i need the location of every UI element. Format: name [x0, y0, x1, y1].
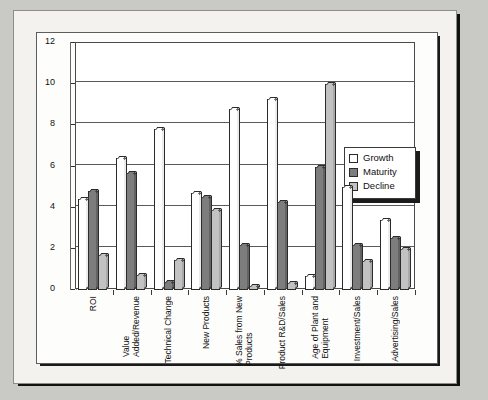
- category-label: ROI: [88, 296, 98, 311]
- bar-side-face: [237, 108, 240, 289]
- bar-growth-8: [380, 220, 389, 290]
- category-tick: [339, 290, 340, 295]
- bar-side-face: [370, 260, 373, 289]
- category-tick: [113, 290, 114, 295]
- bar-side-face: [275, 97, 278, 289]
- bar-maturity-4: [239, 245, 248, 290]
- bar-growth-3: [191, 193, 200, 290]
- category-tick: [188, 290, 189, 295]
- legend-swatch-maturity: [349, 168, 358, 177]
- bar-decline-0: [98, 255, 107, 290]
- bar-side-face: [96, 190, 99, 289]
- bar-side-face: [408, 247, 411, 289]
- legend-label-maturity: Maturity: [363, 167, 397, 177]
- bar-growth-7: [342, 187, 351, 290]
- category-label: Technical Change: [163, 296, 173, 364]
- legend-swatch-growth: [349, 154, 358, 163]
- bar-side-face: [144, 273, 147, 289]
- bar-maturity-0: [88, 191, 97, 290]
- bar-decline-5: [287, 283, 296, 290]
- bar-side-face: [257, 285, 260, 289]
- legend-item-maturity[interactable]: Maturity: [349, 165, 411, 179]
- category-label: Advertising/Sales: [390, 296, 400, 362]
- bar-growth-6: [305, 276, 314, 290]
- y-axis-tick-label: 4: [29, 202, 55, 211]
- bar-growth-1: [116, 158, 125, 290]
- bar-side-face: [86, 198, 89, 289]
- legend-label-decline: Decline: [363, 181, 395, 191]
- page-paper: 024681012 ROIValue Added/RevenueTechnica…: [13, 10, 457, 384]
- category-label: Value Added/Revenue: [121, 296, 141, 357]
- bar-growth-0: [78, 199, 87, 290]
- bar-side-face: [388, 219, 391, 289]
- legend-item-growth[interactable]: Growth: [349, 151, 411, 165]
- y-axis-tick-label: 6: [29, 161, 55, 170]
- category-label: Investment/Sales: [352, 296, 362, 361]
- bar-growth-2: [154, 129, 163, 290]
- legend-item-decline[interactable]: Decline: [349, 179, 411, 193]
- bar-side-face: [285, 200, 288, 289]
- bar-side-face: [106, 254, 109, 289]
- chart-plot-area: 024681012 ROIValue Added/RevenueTechnica…: [37, 33, 437, 363]
- bar-side-face: [199, 192, 202, 289]
- bar-maturity-7: [352, 245, 361, 290]
- legend-label-growth: Growth: [363, 153, 394, 163]
- bar-side-face: [209, 196, 212, 289]
- bar-decline-4: [249, 286, 258, 290]
- bar-side-face: [295, 281, 298, 289]
- category-label: % Sales from New Products: [234, 296, 254, 366]
- bar-side-face: [134, 171, 137, 289]
- bar-decline-3: [211, 210, 220, 290]
- category-tick: [226, 290, 227, 295]
- bar-maturity-3: [201, 197, 210, 290]
- category-tick: [302, 290, 303, 295]
- y-axis-tick-label: 8: [29, 119, 55, 128]
- bar-decline-7: [362, 261, 371, 290]
- category-tick: [264, 290, 265, 295]
- bar-growth-4: [229, 109, 238, 290]
- category-tick: [415, 290, 416, 295]
- bar-side-face: [182, 259, 185, 289]
- bar-decline-8: [400, 249, 409, 290]
- bar-decline-6: [325, 84, 334, 290]
- chart-legend: Growth Maturity Decline: [344, 147, 416, 199]
- bar-side-face: [124, 157, 127, 289]
- y-axis-tick-label: 12: [29, 37, 55, 46]
- category-label: Product R&D/Sales: [277, 296, 287, 369]
- y-axis-tick-label: 10: [29, 78, 55, 87]
- bar-maturity-6: [315, 167, 324, 291]
- bar-side-face: [247, 243, 250, 289]
- category-label: Age of Plant and Equipment: [310, 296, 330, 359]
- bar-side-face: [219, 208, 222, 289]
- y-axis-tick-label: 2: [29, 243, 55, 252]
- bar-maturity-8: [390, 238, 399, 290]
- bar-maturity-5: [277, 202, 286, 291]
- bar-side-face: [398, 236, 401, 289]
- bar-decline-1: [136, 275, 145, 290]
- bar-maturity-1: [126, 173, 135, 290]
- category-tick: [377, 290, 378, 295]
- category-tick: [151, 290, 152, 295]
- bar-side-face: [360, 243, 363, 289]
- y-axis-tick-label: 0: [29, 284, 55, 293]
- bar-side-face: [350, 186, 353, 289]
- bar-side-face: [323, 165, 326, 289]
- bar-growth-5: [267, 99, 276, 290]
- scanned-page: 024681012 ROIValue Added/RevenueTechnica…: [0, 0, 488, 400]
- category-label: New Products: [201, 296, 211, 349]
- bar-chart-figure: 024681012 ROIValue Added/RevenueTechnica…: [36, 32, 438, 364]
- bar-side-face: [333, 83, 336, 289]
- bar-side-face: [162, 128, 165, 289]
- bar-side-face: [313, 274, 316, 289]
